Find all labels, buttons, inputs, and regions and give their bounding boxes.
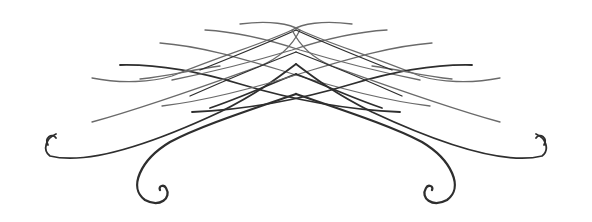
right-half-strokes [92,22,546,203]
stroke-sweep [292,30,500,122]
stroke-sweep-spiral [46,64,296,158]
stroke-sweep [92,30,300,122]
stroke-sweep-spiral [296,64,546,158]
ornament-canvas [0,0,592,222]
left-half-strokes [46,22,500,203]
flourish-ornament [0,0,592,222]
